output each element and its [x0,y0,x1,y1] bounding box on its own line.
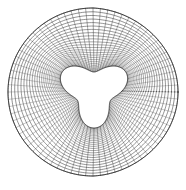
wireframe-mesh-plot [0,0,186,190]
figure-container [0,0,186,190]
